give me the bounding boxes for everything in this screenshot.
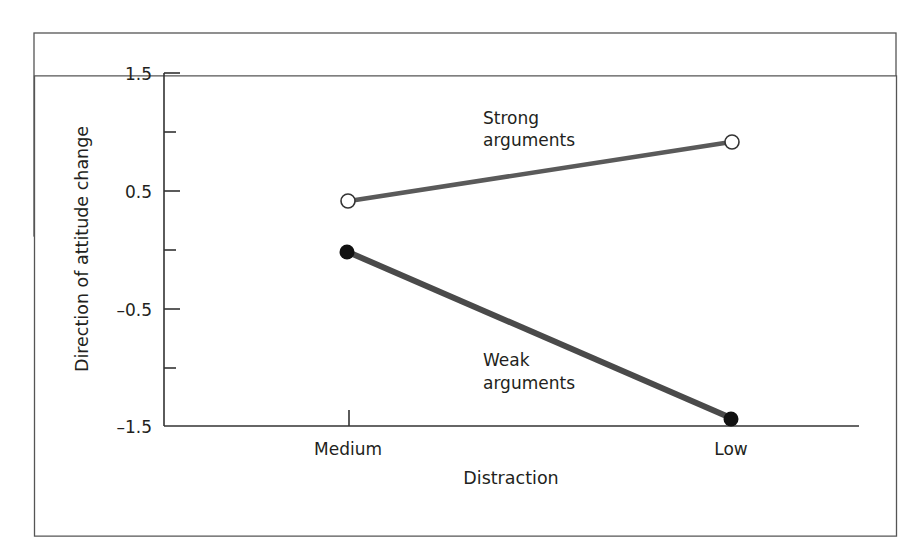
weak-arguments-label-line2: arguments bbox=[483, 373, 575, 393]
y-tick-label-1-5: 1.5 bbox=[125, 64, 152, 84]
strong-arguments-label-line2: arguments bbox=[483, 130, 575, 150]
x-tick-label-medium: Medium bbox=[314, 439, 382, 459]
strong-point-medium bbox=[341, 194, 355, 208]
weak-arguments-label-line1: Weak bbox=[483, 350, 530, 370]
y-tick-label-neg-1-5: –1.5 bbox=[116, 417, 152, 437]
weak-point-medium bbox=[340, 245, 355, 260]
y-tick-label-neg-0-5: –0.5 bbox=[116, 300, 152, 320]
y-axis-title: Direction of attitude change bbox=[72, 126, 92, 372]
strong-arguments-label-line1: Strong bbox=[483, 108, 539, 128]
y-tick-label-0-5: 0.5 bbox=[125, 182, 152, 202]
chart-figure: 1.5 0.5 –0.5 –1.5 Direction of attitude … bbox=[0, 0, 921, 543]
x-tick-label-low: Low bbox=[714, 439, 748, 459]
weak-point-low bbox=[724, 412, 739, 427]
strong-point-low bbox=[725, 135, 739, 149]
x-axis-title: Distraction bbox=[463, 468, 558, 488]
